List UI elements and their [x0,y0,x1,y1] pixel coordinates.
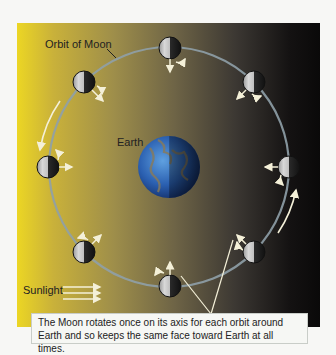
caption-line-2: Earth and so keeps the same face toward … [38,329,301,355]
moon-icon [159,275,181,297]
orbit-of-moon-label: Orbit of Moon [45,38,112,50]
earth-icon [138,136,200,198]
caption-box: The Moon rotates once on its axis for ea… [31,313,308,344]
sunlight-label: Sunlight [23,284,63,296]
orbit-label-leader [107,49,116,58]
moon-icon [159,37,181,59]
moon-icon [37,156,59,178]
moon-icon [278,156,300,178]
caption-line-1: The Moon rotates once on its axis for ea… [38,316,301,329]
earth-label: Earth [117,136,143,148]
orbit-diagram [0,0,336,355]
sunlight-arrows [63,287,100,299]
moon-icon [73,241,95,263]
moon-icon [73,71,95,93]
moon-icon [243,241,265,263]
moon-icon [243,71,265,93]
caption-pointers [181,240,233,314]
